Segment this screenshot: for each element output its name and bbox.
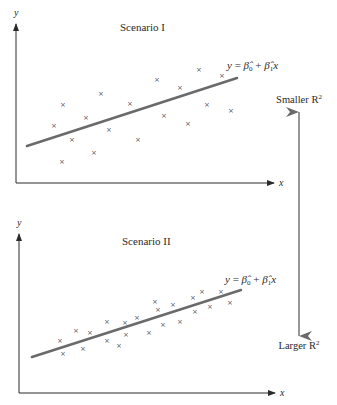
data-point-marker: × <box>192 308 198 316</box>
data-point-marker: × <box>104 318 110 326</box>
data-point-marker: × <box>116 342 122 350</box>
scenario-1-y-label: y <box>13 7 19 18</box>
data-point-marker: × <box>170 301 176 309</box>
larger-r-squared-label: Larger R2 <box>279 339 320 351</box>
scenario-1-title: Scenario I <box>120 21 165 33</box>
scenario-2-points: ××××××××××××××××××××××× <box>57 288 233 358</box>
scenario-1-fit-line <box>27 78 237 146</box>
data-point-marker: × <box>135 136 141 144</box>
data-point-marker: × <box>60 350 66 358</box>
data-point-marker: × <box>160 321 166 329</box>
data-point-marker: × <box>177 84 183 92</box>
data-point-marker: × <box>227 299 233 307</box>
data-point-marker: × <box>60 101 66 109</box>
data-point-marker: × <box>154 76 160 84</box>
data-point-marker: × <box>219 72 225 80</box>
data-point-marker: × <box>57 337 63 345</box>
scenario-1-x-label: x <box>278 177 284 188</box>
data-point-marker: × <box>196 66 202 74</box>
data-point-marker: × <box>80 345 86 353</box>
data-point-marker: × <box>146 329 152 337</box>
data-point-marker: × <box>123 331 129 339</box>
scenario-2-fit-equation: y = β̂0 + β̂1x <box>224 273 276 287</box>
data-point-marker: × <box>152 298 158 306</box>
scenario-1-fit-equation: y = β̂0 + β̂1x <box>226 59 278 73</box>
data-point-marker: × <box>83 114 89 122</box>
data-point-marker: × <box>134 314 140 322</box>
scenario-1-chart: y x Scenario I ×××××××××××××××××× y = β̂… <box>13 7 284 188</box>
data-point-marker: × <box>73 327 79 335</box>
data-point-marker: × <box>161 112 167 120</box>
data-point-marker: × <box>185 120 191 128</box>
data-point-marker: × <box>104 337 110 345</box>
data-point-marker: × <box>122 319 128 327</box>
r-squared-arrow-annotation: Smaller R2 Larger R2 <box>276 93 322 351</box>
scenario-2-y-label: y <box>16 217 22 228</box>
r-squared-comparison-figure: y x Scenario I ×××××××××××××××××× y = β̂… <box>0 0 337 405</box>
data-point-marker: × <box>155 306 161 314</box>
data-point-marker: × <box>69 136 75 144</box>
data-point-marker: × <box>127 100 133 108</box>
scenario-2-title: Scenario II <box>122 235 171 247</box>
data-point-marker: × <box>106 126 112 134</box>
data-point-marker: × <box>207 303 213 311</box>
data-point-marker: × <box>204 101 210 109</box>
data-point-marker: × <box>59 158 65 166</box>
data-point-marker: × <box>98 90 104 98</box>
smaller-r-squared-label: Smaller R2 <box>276 93 322 105</box>
data-point-marker: × <box>51 122 57 130</box>
data-point-marker: × <box>228 107 234 115</box>
data-point-marker: × <box>87 329 93 337</box>
data-point-marker: × <box>91 149 97 157</box>
data-point-marker: × <box>177 318 183 326</box>
data-point-marker: × <box>190 294 196 302</box>
scenario-2-x-label: x <box>279 387 285 398</box>
scenario-2-fit-line <box>32 290 241 357</box>
scenario-1-points: ×××××××××××××××××× <box>51 66 234 166</box>
data-point-marker: × <box>199 288 205 296</box>
data-point-marker: × <box>218 288 224 296</box>
scenario-2-chart: y x Scenario II ××××××××××××××××××××××× … <box>16 217 285 398</box>
